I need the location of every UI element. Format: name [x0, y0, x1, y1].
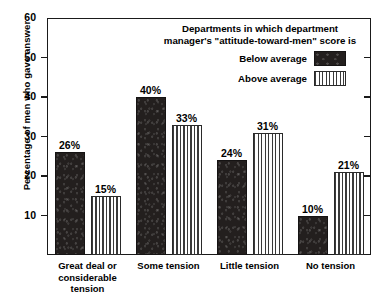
bar-below: 24%	[217, 160, 247, 255]
bar-below: 40%	[136, 97, 166, 255]
bar-below: 10%	[298, 216, 328, 256]
y-axis-tick-label: 60	[8, 11, 36, 23]
y-axis-tick-label: 50	[8, 51, 36, 63]
category-label-line: tension	[33, 283, 143, 295]
bar-value-label: 21%	[338, 159, 359, 171]
legend: Departments in which department manager'…	[152, 20, 368, 86]
legend-item-above-average: Above average	[152, 71, 368, 86]
y-axis-tick-label: 40	[8, 90, 36, 102]
bar-below: 26%	[55, 152, 85, 255]
legend-title: Departments in which department manager'…	[152, 23, 368, 46]
x-axis-category-label: No tension	[276, 260, 382, 272]
legend-item-label: Below average	[239, 53, 307, 64]
legend-swatch-above-average-icon	[314, 71, 346, 86]
bar-above: 15%	[91, 196, 121, 255]
bar-value-label: 33%	[176, 112, 197, 124]
legend-swatch-below-average-icon	[314, 51, 346, 66]
bar-value-label: 31%	[257, 120, 278, 132]
category-label-line: No tension	[276, 260, 382, 272]
bar-value-label: 10%	[302, 203, 323, 215]
bar-value-label: 24%	[221, 147, 242, 159]
y-axis-tick-label: 20	[8, 169, 36, 181]
bar-above: 21%	[334, 172, 364, 255]
bar-above: 33%	[172, 125, 202, 255]
bar-value-label: 15%	[95, 183, 116, 195]
bar-chart: Percentage of men who gave answer 102030…	[0, 0, 382, 299]
y-axis-tick-label: 30	[8, 130, 36, 142]
category-label-line: considerable	[33, 272, 143, 284]
bar-value-label: 26%	[59, 139, 80, 151]
legend-item-below-average: Below average	[152, 51, 368, 66]
legend-item-label: Above average	[238, 73, 307, 84]
y-axis-tick-label: 10	[8, 209, 36, 221]
bar-above: 31%	[253, 133, 283, 255]
